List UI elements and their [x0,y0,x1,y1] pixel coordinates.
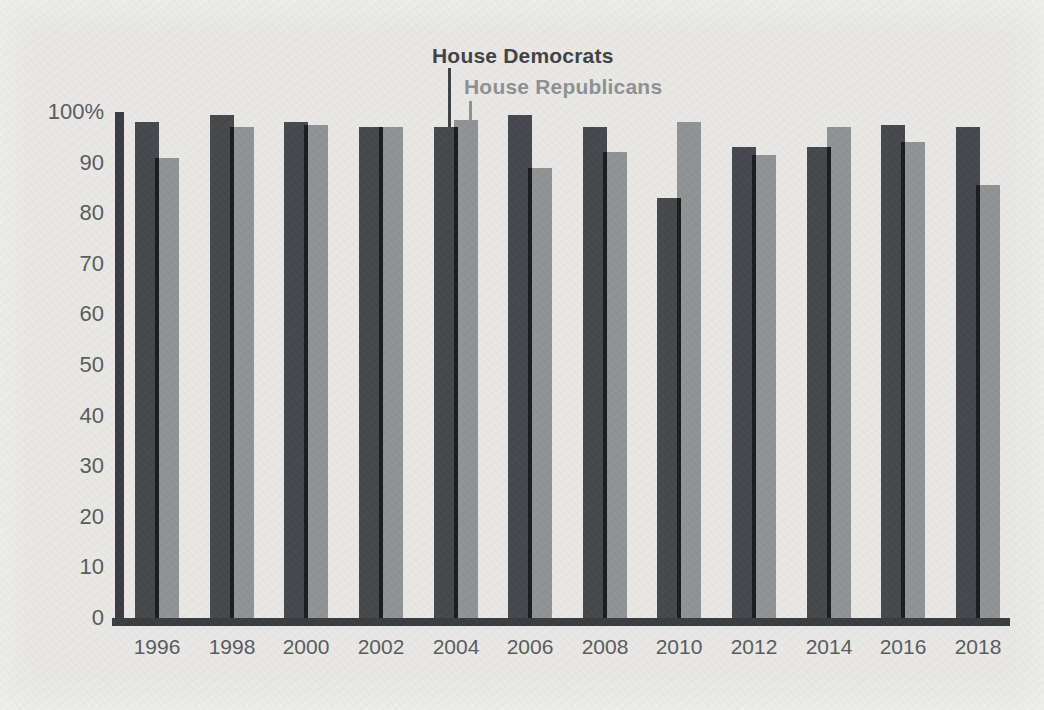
x-axis-year-label: 2006 [490,635,570,659]
y-axis-tick-label: 10 [18,554,104,580]
x-axis-year-label: 1998 [192,635,272,659]
bar-overlap-strip-2012 [752,155,756,618]
x-axis-year-label: 2002 [341,635,421,659]
x-axis-year-label: 2004 [416,635,496,659]
bar-overlap-strip-2014 [827,147,831,618]
legend-label-house-republicans: House Republicans [464,75,662,99]
x-axis-year-label: 2014 [789,635,869,659]
x-axis-year-label: 2008 [565,635,645,659]
y-axis-tick-label: 100% [18,99,104,125]
x-axis-year-label: 2012 [714,635,794,659]
y-axis-tick-label: 0 [18,605,104,631]
bar-overlap-strip-2010 [677,198,681,618]
bar-overlap-strip-2006 [528,168,532,618]
bar-overlap-strip-2000 [304,125,308,618]
y-axis-tick-label: 50 [18,352,104,378]
legend-label-house-democrats: House Democrats [432,44,614,68]
y-axis-tick-label: 80 [18,200,104,226]
bar-overlap-strip-2016 [901,142,905,618]
bar-overlap-strip-2008 [603,152,607,618]
y-axis-tick-label: 20 [18,504,104,530]
x-axis-year-label: 2000 [266,635,346,659]
democrats-leader-line [448,68,451,130]
y-axis-line [115,112,124,626]
x-axis-year-label: 1996 [117,635,197,659]
party-unity-bar-chart: House Democrats House Republicans 010203… [0,0,1044,710]
x-axis-year-label: 2018 [938,635,1018,659]
bar-overlap-strip-2002 [379,127,383,618]
bar-overlap-strip-1998 [230,127,234,618]
y-axis-tick-label: 60 [18,301,104,327]
republicans-leader-line [469,101,472,122]
bar-overlap-strip-1996 [155,158,159,618]
scanned-page: House Democrats House Republicans 010203… [0,0,1044,710]
y-axis-tick-label: 90 [18,150,104,176]
y-axis-tick-label: 30 [18,453,104,479]
y-axis-tick-label: 70 [18,251,104,277]
x-axis-line [112,618,1010,626]
x-axis-year-label: 2016 [863,635,943,659]
bar-overlap-strip-2004 [454,127,458,618]
x-axis-year-label: 2010 [639,635,719,659]
bar-overlap-strip-2018 [976,185,980,618]
y-axis-tick-label: 40 [18,403,104,429]
